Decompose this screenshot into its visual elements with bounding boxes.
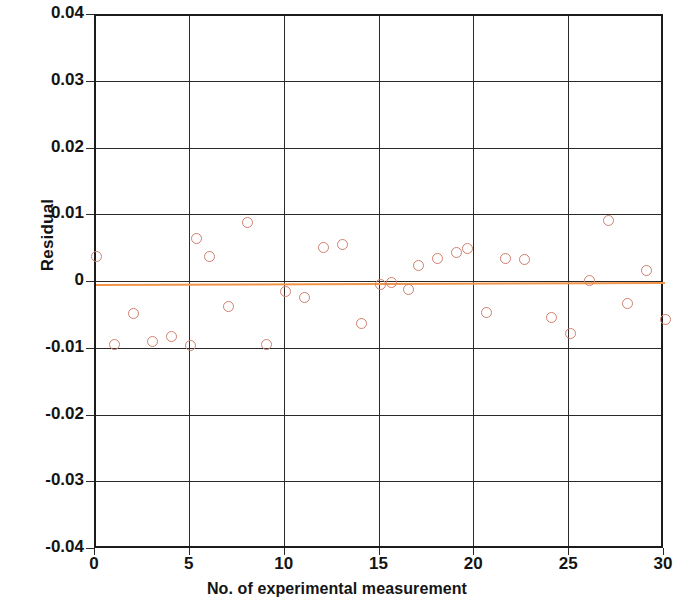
y-axis-tick-mark xyxy=(86,548,94,549)
x-axis-tick-label: 10 xyxy=(264,554,304,574)
data-point xyxy=(318,242,329,253)
data-point xyxy=(191,233,202,244)
y-axis-tick-label: 0.01 xyxy=(0,203,84,223)
data-point xyxy=(299,292,310,303)
x-axis-tick-label: 25 xyxy=(548,554,588,574)
zero-reference-line xyxy=(96,282,665,286)
data-point xyxy=(403,284,414,295)
data-point xyxy=(565,328,576,339)
y-axis-tick-label: -0.04 xyxy=(0,537,84,557)
data-point xyxy=(500,253,511,264)
data-point xyxy=(223,301,234,312)
data-point xyxy=(185,340,196,351)
data-point xyxy=(432,253,443,264)
x-axis-tick-mark xyxy=(379,548,380,555)
x-axis-tick-mark xyxy=(663,548,664,555)
data-point xyxy=(280,286,291,297)
data-point xyxy=(413,260,424,271)
y-axis-tick-label: -0.03 xyxy=(0,470,84,490)
y-axis-tick-label: 0 xyxy=(0,270,84,290)
x-axis-tick-mark xyxy=(94,548,95,555)
x-axis-tick-mark xyxy=(568,548,569,555)
grid-line-vertical xyxy=(568,16,569,546)
x-axis-tick-mark xyxy=(284,548,285,555)
x-axis-title: No. of experimental measurement xyxy=(0,580,674,598)
data-point xyxy=(356,318,367,329)
y-axis-tick-mark xyxy=(86,348,94,349)
grid-line-vertical xyxy=(473,16,474,546)
data-point xyxy=(603,215,614,226)
data-point xyxy=(641,265,652,276)
data-point xyxy=(204,251,215,262)
residual-scatter-chart: Residual No. of experimental measurement… xyxy=(0,0,674,611)
data-point xyxy=(481,307,492,318)
data-point xyxy=(337,239,348,250)
grid-line-vertical xyxy=(189,16,190,546)
grid-line-vertical xyxy=(379,16,380,546)
y-axis-tick-label: 0.04 xyxy=(0,3,84,23)
y-axis-tick-label: -0.01 xyxy=(0,337,84,357)
data-point xyxy=(462,243,473,254)
data-point xyxy=(519,254,530,265)
y-axis-tick-mark xyxy=(86,14,94,15)
grid-line-vertical xyxy=(284,16,285,546)
y-axis-tick-mark xyxy=(86,481,94,482)
y-axis-tick-label: -0.02 xyxy=(0,404,84,424)
data-point xyxy=(660,314,671,325)
data-point xyxy=(166,331,177,342)
data-point xyxy=(546,312,557,323)
y-axis-tick-mark xyxy=(86,148,94,149)
y-axis-tick-mark xyxy=(86,214,94,215)
x-axis-tick-label: 20 xyxy=(453,554,493,574)
x-axis-tick-label: 30 xyxy=(643,554,674,574)
data-point xyxy=(128,308,139,319)
y-axis-tick-label: 0.03 xyxy=(0,70,84,90)
data-point xyxy=(91,251,102,262)
y-axis-tick-mark xyxy=(86,415,94,416)
x-axis-tick-label: 0 xyxy=(74,554,114,574)
x-axis-tick-label: 5 xyxy=(169,554,209,574)
x-axis-tick-mark xyxy=(189,548,190,555)
data-point xyxy=(147,336,158,347)
data-point xyxy=(622,298,633,309)
x-axis-tick-label: 15 xyxy=(359,554,399,574)
data-point xyxy=(242,217,253,228)
y-axis-tick-mark xyxy=(86,281,94,282)
data-point xyxy=(451,247,462,258)
y-axis-tick-mark xyxy=(86,81,94,82)
plot-area xyxy=(94,14,663,548)
x-axis-tick-mark xyxy=(473,548,474,555)
y-axis-tick-label: 0.02 xyxy=(0,137,84,157)
